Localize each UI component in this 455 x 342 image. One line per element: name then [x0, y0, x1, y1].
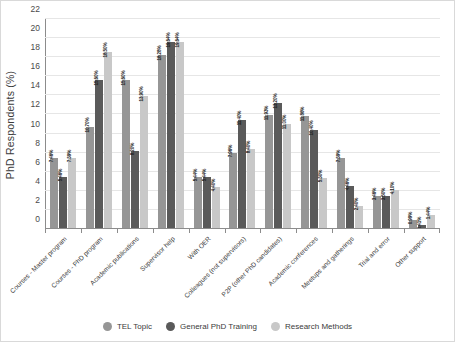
bar-group: 10.70%15.60%18.50% — [81, 19, 117, 229]
bar-value-label: 5.44% — [202, 169, 207, 182]
x-axis-tick-label: With OER — [186, 235, 212, 261]
bar-value-label: 1.44% — [426, 207, 431, 220]
bar: 18.28% — [158, 55, 166, 229]
y-axis-tick-label: 18 — [31, 42, 40, 52]
bar: 3.46% — [373, 196, 381, 229]
bar: 15.60% — [95, 80, 103, 229]
bar-value-label: 18.50% — [103, 43, 108, 58]
y-axis-tick-label: 10 — [31, 119, 40, 129]
y-axis-tick-label: 14 — [31, 80, 40, 90]
bar: 8.20% — [131, 151, 139, 229]
bar: 4.46% — [346, 186, 354, 229]
bar: 5.46% — [59, 177, 67, 229]
bar-group: 18.28%19.64%19.64% — [153, 19, 189, 229]
y-axis-tick-label: 4 — [35, 176, 40, 186]
bar-chart-figure: PhD Respondents (%) 0246810121416182022 … — [0, 0, 455, 342]
legend-label: General PhD Training — [180, 322, 257, 331]
x-axis-line — [45, 228, 440, 229]
bar-value-label: 4.46% — [345, 178, 350, 191]
bar-group: 7.96%11.40%8.40% — [225, 19, 261, 229]
bar-value-label: 2.40% — [354, 198, 359, 211]
x-axis-label-cell: Other support — [404, 233, 440, 303]
bar-group: 15.60%8.20%13.90% — [117, 19, 153, 229]
bar: 5.30% — [319, 178, 327, 229]
bar-group: 11.93%13.20%11.00% — [260, 19, 296, 229]
bar-value-label: 3.46% — [372, 188, 377, 201]
bar-value-label: 18.28% — [157, 45, 162, 60]
bar-value-label: 11.93% — [264, 106, 269, 121]
bar: 7.96% — [229, 153, 237, 229]
bar-value-label: 10.70% — [85, 117, 90, 132]
y-axis-tick-label: 2 — [35, 195, 40, 205]
bar: 19.64% — [167, 42, 175, 229]
bar-value-label: 5.30% — [318, 170, 323, 183]
bar-group: 11.86%10.40%5.30% — [296, 19, 332, 229]
bar-value-label: 19.64% — [175, 32, 180, 47]
bar-value-label: 7.39% — [67, 150, 72, 163]
y-axis-tick-label: 12 — [31, 99, 40, 109]
bar-value-label: 15.60% — [94, 71, 99, 86]
bar: 7.39% — [68, 158, 76, 229]
legend-item[interactable]: General PhD Training — [166, 322, 257, 331]
y-axis-tick-label: 0 — [35, 214, 40, 224]
y-axis-tick-label: 16 — [31, 61, 40, 71]
bar: 4.40% — [212, 187, 220, 229]
bar: 3.50% — [382, 196, 390, 229]
bar-value-label: 4.40% — [211, 179, 216, 192]
bar: 4.10% — [391, 190, 399, 229]
legend-item[interactable]: TEL Topic — [103, 322, 152, 331]
bar-group: 3.46%3.50%4.10% — [368, 19, 404, 229]
y-axis-title: PhD Respondents (%) — [3, 19, 17, 231]
bar: 15.60% — [122, 80, 130, 229]
y-axis-tick-label: 6 — [35, 157, 40, 167]
bar-value-label: 19.64% — [166, 32, 171, 47]
legend-item[interactable]: Research Methods — [271, 322, 352, 331]
bar-value-label: 11.86% — [300, 106, 305, 121]
x-axis-tick-label: Courses - Master program — [9, 235, 68, 294]
legend-color-swatch-icon — [103, 322, 112, 331]
bar: 11.93% — [265, 115, 273, 229]
y-axis-tick-label: 20 — [31, 23, 40, 33]
bar-value-label: 13.90% — [139, 87, 144, 102]
bar: 7.39% — [337, 158, 345, 229]
bar-value-label: 11.00% — [282, 115, 287, 130]
y-axis-tick-label: 8 — [35, 138, 40, 148]
bar: 19.64% — [176, 42, 184, 229]
bar-value-label: 13.20% — [273, 94, 278, 109]
plot-area: 0246810121416182022 7.46%5.46%7.39%10.70… — [45, 19, 440, 229]
legend-color-swatch-icon — [166, 322, 175, 331]
legend-color-swatch-icon — [271, 322, 280, 331]
bar-group: 7.39%4.46%2.40% — [332, 19, 368, 229]
bar-value-label: 4.10% — [390, 182, 395, 195]
bar-value-label: 7.46% — [49, 150, 54, 163]
bar-value-label: 11.40% — [237, 111, 242, 126]
bar-value-label: 7.96% — [228, 145, 233, 158]
bar-value-label: 5.46% — [58, 169, 63, 182]
bar: 11.00% — [283, 124, 291, 229]
chart-legend: TEL TopicGeneral PhD TrainingResearch Me… — [1, 322, 454, 331]
x-axis-label-cell: P2P (other PhD candidates) — [260, 233, 296, 303]
bar-value-label: 3.50% — [381, 187, 386, 200]
bar: 18.50% — [104, 52, 112, 229]
bar: 11.40% — [238, 120, 246, 229]
y-axis-tick-label: 22 — [31, 4, 40, 14]
bar: 10.70% — [86, 127, 94, 229]
bar-value-label: 7.39% — [336, 150, 341, 163]
bar: 7.46% — [50, 158, 58, 229]
bar-group: 7.46%5.46%7.39% — [45, 19, 81, 229]
bar-value-label: 8.20% — [130, 142, 135, 155]
bar-value-label: 8.40% — [246, 141, 251, 154]
bar: 2.40% — [355, 206, 363, 229]
x-axis-category-labels: Courses - Master programCourses - PhD pr… — [45, 233, 440, 303]
bar-groups: 7.46%5.46%7.39%10.70%15.60%18.50%15.60%8… — [45, 19, 440, 229]
bar: 13.90% — [140, 96, 148, 229]
bar: 8.40% — [247, 149, 255, 229]
bar: 5.44% — [203, 177, 211, 229]
bar-value-label: 15.60% — [121, 71, 126, 86]
bar-value-label: 0.99% — [408, 211, 413, 224]
bar-group: 0.99%0.41%1.44% — [404, 19, 440, 229]
legend-label: TEL Topic — [117, 322, 152, 331]
bar: 1.44% — [427, 215, 435, 229]
bar-value-label: 10.40% — [309, 120, 314, 135]
bar-group: 5.44%5.44%4.40% — [189, 19, 225, 229]
